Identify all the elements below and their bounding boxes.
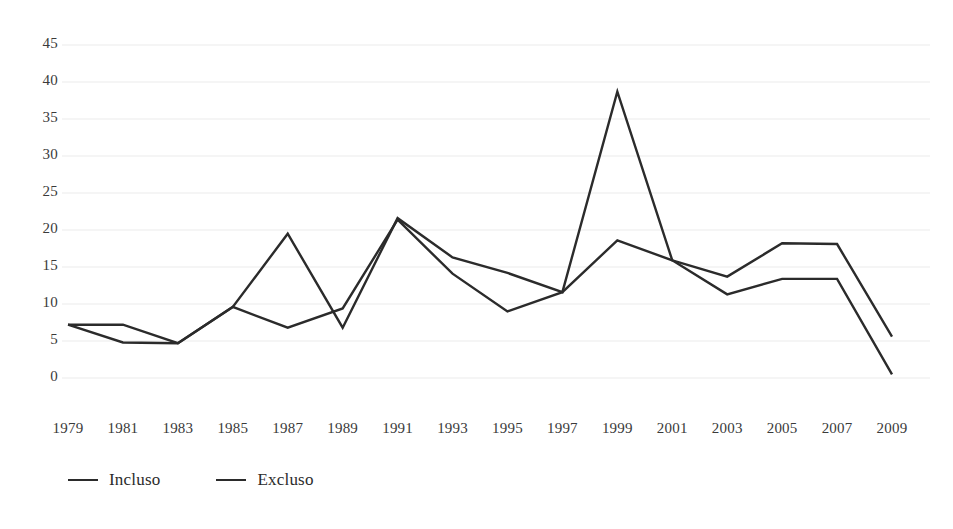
legend-item-incluso[interactable]: Incluso — [68, 470, 160, 490]
legend-line-swatch-icon — [68, 479, 98, 481]
y-tick-label: 30 — [18, 146, 58, 163]
legend-label-excluso: Excluso — [257, 470, 313, 490]
series-line-incluso — [68, 92, 892, 344]
y-tick-label: 25 — [18, 183, 58, 200]
y-tick-label: 35 — [18, 109, 58, 126]
x-tick-label: 2009 — [866, 420, 918, 437]
x-tick-label: 1991 — [372, 420, 424, 437]
chart-legend: Incluso Excluso — [68, 470, 314, 490]
x-tick-label: 2005 — [756, 420, 808, 437]
x-tick-label: 1983 — [152, 420, 204, 437]
y-tick-label: 0 — [18, 368, 58, 385]
x-tick-label: 1979 — [42, 420, 94, 437]
legend-line-swatch-icon — [216, 479, 246, 481]
legend-label-incluso: Incluso — [109, 470, 160, 490]
x-tick-label: 1981 — [97, 420, 149, 437]
line-chart: 051015202530354045 197919811983198519871… — [0, 0, 953, 529]
x-tick-label: 1993 — [427, 420, 479, 437]
x-tick-label: 2003 — [701, 420, 753, 437]
x-tick-label: 1985 — [207, 420, 259, 437]
y-tick-label: 10 — [18, 294, 58, 311]
y-tick-label: 45 — [18, 35, 58, 52]
x-tick-label: 2001 — [646, 420, 698, 437]
x-tick-label: 1987 — [262, 420, 314, 437]
x-tick-label: 1999 — [591, 420, 643, 437]
y-tick-label: 40 — [18, 72, 58, 89]
y-tick-label: 15 — [18, 257, 58, 274]
y-tick-label: 5 — [18, 331, 58, 348]
y-tick-label: 20 — [18, 220, 58, 237]
gridlines — [62, 45, 930, 378]
x-tick-label: 1997 — [536, 420, 588, 437]
x-tick-label: 2007 — [811, 420, 863, 437]
legend-item-excluso[interactable]: Excluso — [216, 470, 313, 490]
x-tick-label: 1995 — [481, 420, 533, 437]
x-tick-label: 1989 — [317, 420, 369, 437]
series-line-excluso — [68, 220, 892, 375]
data-series-lines — [68, 92, 892, 375]
chart-plot-area — [0, 0, 953, 529]
